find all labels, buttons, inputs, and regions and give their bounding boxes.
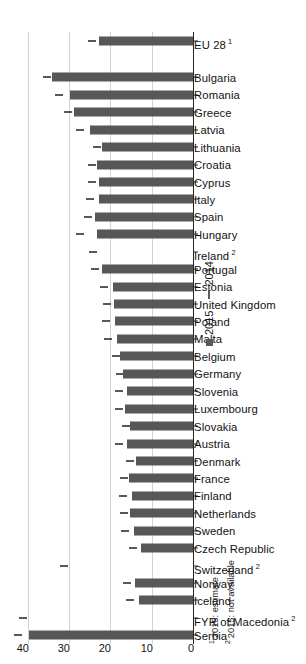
bar-2015	[117, 334, 194, 343]
bar-slot	[8, 452, 194, 469]
bar-slot	[8, 156, 194, 173]
bar-2015	[127, 387, 194, 396]
bar-2015	[130, 509, 194, 518]
category-label: Luxembourg	[194, 404, 258, 415]
bar-slot	[8, 417, 194, 434]
bar-slot	[8, 32, 194, 49]
bar-2015	[102, 265, 194, 274]
category-label: Cyprus	[194, 178, 230, 189]
bar-slot	[8, 505, 194, 522]
marker-2014	[91, 268, 99, 270]
marker-2014	[93, 146, 101, 148]
category-label: Latvia	[194, 125, 225, 136]
legend-item: 2014	[203, 261, 215, 298]
footnote-mark: 2	[229, 248, 235, 257]
marker-2014	[76, 129, 84, 131]
category-label: Austria	[194, 439, 230, 450]
bar-2015	[102, 143, 194, 152]
marker-2014	[126, 460, 134, 462]
marker-2014	[129, 547, 137, 549]
footnote: 2 2015: not available	[222, 560, 238, 644]
marker-2014	[123, 582, 131, 584]
bar-2015	[125, 404, 194, 413]
marker-2014	[100, 286, 108, 288]
bar-slot	[8, 313, 194, 330]
marker-2014	[126, 599, 134, 601]
source-strip	[0, 299, 306, 306]
bar-slot	[8, 627, 194, 644]
bar-2015	[97, 160, 194, 169]
category-label: Portugal	[194, 265, 237, 276]
footnote-mark: 2	[289, 614, 295, 623]
bar-slot	[8, 260, 194, 277]
marker-2014	[60, 565, 68, 567]
category-label: Italy	[194, 195, 215, 206]
marker-2014	[64, 111, 72, 113]
marker-2014	[88, 181, 96, 183]
bar-2015	[135, 579, 194, 588]
bar-slot	[8, 574, 194, 591]
bar-2015	[129, 474, 194, 483]
bar-2015	[134, 526, 194, 535]
bar-2015	[130, 422, 194, 431]
category-label: Slovenia	[194, 387, 238, 398]
footnote-mark: 1	[226, 37, 232, 46]
bar-series-group	[8, 32, 194, 644]
bar-slot	[8, 382, 194, 399]
marker-2014	[119, 495, 127, 497]
marker-2014	[14, 634, 22, 636]
footnote: 1 2015: estimate	[206, 560, 222, 644]
chart-footnotes: 1 2015: estimate2 2015: not available	[206, 560, 237, 644]
bar-slot	[8, 138, 194, 155]
bar-2015	[74, 108, 194, 117]
marker-2014	[76, 233, 84, 235]
footnote-mark: 2	[254, 562, 260, 571]
category-label: Belgium	[194, 352, 236, 363]
category-label: EU 28 1	[194, 36, 232, 51]
bar-2015	[127, 439, 194, 448]
bar-2015	[139, 596, 194, 605]
category-label: Greece	[194, 108, 232, 119]
bar-slot	[8, 226, 194, 243]
category-label: Bulgaria	[194, 73, 236, 84]
bar-2015	[136, 456, 194, 465]
bar-2015	[99, 177, 194, 186]
marker-2014	[115, 443, 123, 445]
bar-slot	[8, 208, 194, 225]
bar-2015	[123, 369, 195, 378]
bar-slot	[8, 191, 194, 208]
bar-2015	[120, 352, 194, 361]
rotated-chart-stage: 010203040 SerbiaFYR of Macedonia 2Icelan…	[0, 0, 306, 664]
bar-2015	[70, 90, 194, 99]
bar-2015	[97, 230, 194, 239]
marker-2014	[116, 373, 124, 375]
bar-slot	[8, 470, 194, 487]
bar-slot	[8, 435, 194, 452]
plot-area	[8, 32, 194, 644]
bar-slot	[8, 400, 194, 417]
legend-item: 2015	[203, 311, 215, 346]
category-label: Spain	[194, 212, 223, 223]
marker-2014	[88, 40, 96, 42]
marker-2014	[86, 198, 94, 200]
legend-label: 2014	[203, 261, 215, 285]
category-label: Czech Republic	[194, 544, 275, 555]
category-label: Croatia	[194, 160, 231, 171]
marker-2014	[115, 390, 123, 392]
bar-2015	[115, 317, 194, 326]
marker-2014	[121, 530, 129, 532]
marker-2014	[43, 76, 51, 78]
marker-2014	[55, 94, 63, 96]
bar-2015	[132, 491, 194, 500]
bar-2015	[90, 125, 194, 134]
legend-dash-icon	[208, 290, 210, 299]
category-label: France	[194, 474, 230, 485]
category-label: Romania	[194, 90, 240, 101]
bar-slot	[8, 69, 194, 86]
marker-2014	[89, 251, 97, 253]
category-label: Finland	[194, 491, 232, 502]
category-label: Denmark	[194, 457, 241, 468]
bar-2015	[52, 73, 194, 82]
bar-2015	[99, 195, 194, 204]
value-axis-tick-labels: 010203040	[8, 644, 194, 664]
